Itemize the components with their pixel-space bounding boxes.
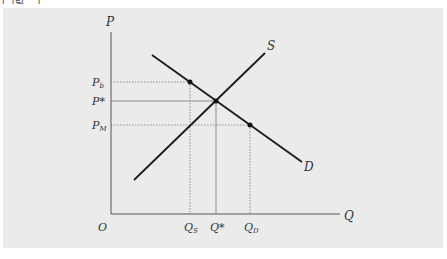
point-pb (188, 80, 193, 85)
supply-curve (134, 53, 265, 180)
point-equilibrium (214, 99, 219, 104)
pm-label: PM (91, 119, 107, 133)
demand-label: D (303, 160, 314, 174)
demand-curve (152, 55, 302, 162)
price-axis-label: P (105, 15, 115, 29)
qd-label: QD (244, 221, 259, 235)
pb-label: Pb (91, 76, 104, 90)
supply-label: S (267, 39, 275, 53)
origin-label: O (98, 221, 107, 234)
qstar-label: Q* (210, 221, 225, 234)
supply-demand-diagram: P Q O S D Pb P* PM QS Q* QD (0, 0, 447, 259)
quantity-axis-label: Q (344, 209, 354, 223)
pstar-label: P* (91, 95, 105, 108)
qs-label: QS (184, 221, 198, 235)
point-pm (248, 123, 253, 128)
